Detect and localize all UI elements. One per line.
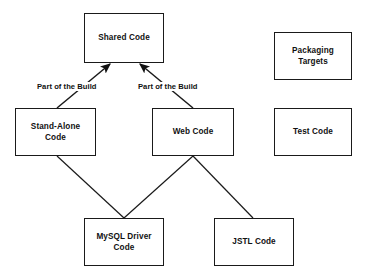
node-label-stand-alone-code: Stand-Alone Code [28,121,83,144]
node-label-jstl-code: JSTL Code [229,236,279,247]
node-mysql-driver-code[interactable]: MySQL Driver Code [84,218,164,266]
node-stand-alone-code[interactable]: Stand-Alone Code [15,108,96,156]
node-jstl-code[interactable]: JSTL Code [214,218,294,266]
edge-label-web-to-shared: Part of the Build [137,82,199,91]
node-label-packaging-targets: Packaging Targets [289,45,337,68]
node-packaging-targets[interactable]: Packaging Targets [274,32,352,80]
edge-web-to-mysql [124,156,193,218]
node-label-web-code: Web Code [170,126,217,137]
node-label-test-code: Test Code [290,126,336,137]
node-label-mysql-driver-code: MySQL Driver Code [93,231,154,254]
node-label-shared-code: Shared Code [95,32,153,43]
node-web-code[interactable]: Web Code [152,108,234,156]
edge-web-to-jstl [193,156,253,218]
edge-stand-alone-to-mysql [57,156,124,218]
node-test-code[interactable]: Test Code [274,108,352,156]
diagram-canvas: Shared Code Packaging Targets Stand-Alon… [0,0,368,276]
node-shared-code[interactable]: Shared Code [84,13,164,63]
edge-label-stand-alone-to-shared: Part of the Build [36,82,98,91]
